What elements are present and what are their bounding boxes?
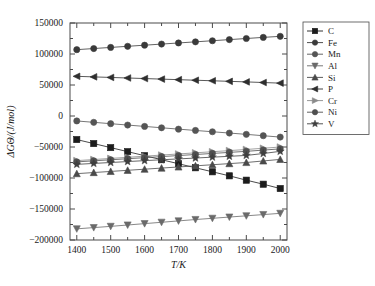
marker-triangle-left — [73, 73, 80, 80]
marker-triangle-left — [192, 77, 199, 84]
marker-circle — [158, 41, 164, 47]
legend-label: C — [328, 26, 334, 36]
marker-circle — [108, 44, 114, 50]
marker-circle — [175, 126, 181, 132]
marker-circle — [243, 35, 249, 41]
marker-triangle-left — [277, 80, 284, 87]
legend-label: P — [328, 84, 333, 94]
marker-circle — [260, 34, 266, 40]
legend-label: Ni — [328, 107, 337, 117]
marker-triangle-left — [175, 76, 182, 83]
series-p — [73, 73, 283, 86]
y-axis-title: ΔGΘ/(J/mol) — [5, 105, 17, 159]
legend-label: V — [328, 119, 335, 129]
marker-circle — [175, 40, 181, 46]
marker-circle — [91, 119, 97, 125]
x-tick-label: 2000 — [271, 245, 290, 255]
marker-circle — [277, 134, 283, 140]
marker-circle — [260, 133, 266, 139]
legend-label: Si — [328, 73, 336, 83]
marker-circle — [312, 40, 317, 45]
marker-circle — [74, 118, 80, 124]
chart-figure: 1400150016001700180019002000−200000−1500… — [0, 0, 375, 286]
marker-circle — [91, 45, 97, 51]
legend-label: Fe — [328, 38, 337, 48]
marker-circle — [312, 52, 317, 57]
x-tick-label: 1700 — [169, 245, 188, 255]
marker-square — [74, 136, 80, 142]
y-tick-label: 50000 — [39, 80, 63, 90]
y-tick-label: 100000 — [35, 49, 64, 59]
y-tick-label: −100000 — [29, 173, 63, 183]
marker-circle — [125, 122, 131, 128]
marker-triangle-left — [141, 75, 148, 82]
marker-circle — [226, 37, 232, 43]
y-tick-label: 0 — [58, 111, 63, 121]
marker-triangle-left — [260, 79, 267, 86]
y-axis-title-text: ΔGΘ/(J/mol) — [5, 105, 17, 159]
marker-triangle-left — [243, 79, 250, 86]
marker-circle — [226, 130, 232, 136]
y-tick-label: −50000 — [34, 142, 63, 152]
legend-label: Al — [328, 61, 337, 71]
legend: CFeMnAlSiPCrNiV — [303, 22, 369, 134]
marker-circle — [141, 42, 147, 48]
x-axis-title: T/K — [171, 259, 187, 270]
marker-circle — [192, 127, 198, 133]
marker-triangle-left — [107, 74, 114, 81]
marker-triangle-left — [158, 76, 165, 83]
x-tick-label: 1800 — [203, 245, 222, 255]
series-mn — [74, 118, 284, 140]
x-tick-label: 1900 — [237, 245, 256, 255]
x-tick-label: 1400 — [67, 245, 86, 255]
marker-circle — [243, 131, 249, 137]
y-tick-label: −150000 — [29, 204, 63, 214]
marker-circle — [108, 121, 114, 127]
x-tick-label: 1600 — [135, 245, 154, 255]
marker-circle — [74, 47, 80, 53]
x-tick-label: 1500 — [101, 245, 120, 255]
marker-square — [91, 140, 97, 146]
marker-circle — [192, 39, 198, 45]
y-tick-label: 150000 — [35, 18, 64, 28]
marker-triangle-left — [226, 78, 233, 85]
marker-square — [125, 149, 131, 155]
marker-square — [209, 169, 215, 175]
marker-triangle-left — [90, 74, 97, 81]
marker-square — [277, 185, 283, 191]
marker-circle — [158, 125, 164, 131]
marker-square — [108, 145, 114, 151]
marker-circle — [312, 110, 317, 115]
marker-square — [312, 28, 317, 33]
y-tick-label: −200000 — [29, 235, 63, 245]
series-fe — [74, 33, 284, 53]
marker-circle — [125, 43, 131, 49]
marker-circle — [209, 129, 215, 135]
marker-circle — [209, 38, 215, 44]
series-al — [73, 210, 283, 232]
marker-triangle-up — [277, 156, 284, 163]
marker-circle — [141, 123, 147, 129]
legend-label: Cr — [328, 96, 337, 106]
marker-triangle-left — [209, 77, 216, 84]
marker-square — [226, 173, 232, 179]
marker-circle — [277, 33, 283, 39]
marker-square — [243, 177, 249, 183]
marker-square — [260, 181, 266, 187]
marker-triangle-left — [124, 75, 131, 82]
legend-label: Mn — [328, 49, 341, 59]
